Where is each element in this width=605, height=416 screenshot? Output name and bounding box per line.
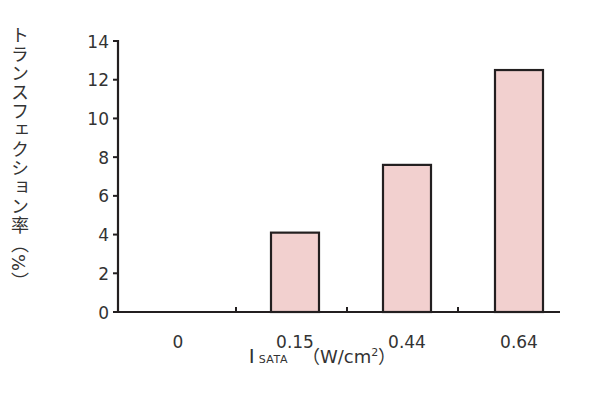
bar xyxy=(271,233,319,312)
y-axis-label: トランスフェクション率（%） xyxy=(9,26,27,291)
y-tick-label: 2 xyxy=(98,264,109,284)
y-axis: 02468101214 xyxy=(87,32,118,323)
y-tick-label: 0 xyxy=(98,303,109,323)
x-axis-unit-close: ） xyxy=(378,346,396,367)
y-tick-label: 6 xyxy=(98,186,109,206)
y-tick-label: 4 xyxy=(98,225,109,245)
bar xyxy=(495,70,543,312)
y-axis-title: トランスフェクション率（%） xyxy=(6,26,30,291)
y-tick-label: 8 xyxy=(98,148,109,168)
x-axis-unit: （W/cm xyxy=(302,346,371,367)
x-axis-symbol: I xyxy=(249,344,255,368)
x-axis-title: ISATA（W/cm2） xyxy=(0,342,605,368)
y-tick-label: 12 xyxy=(87,70,109,90)
y-tick-label: 14 xyxy=(87,32,109,52)
bars xyxy=(271,70,543,312)
bar xyxy=(383,165,431,312)
x-axis-subscript: SATA xyxy=(259,353,288,366)
y-tick-label: 10 xyxy=(87,109,109,129)
